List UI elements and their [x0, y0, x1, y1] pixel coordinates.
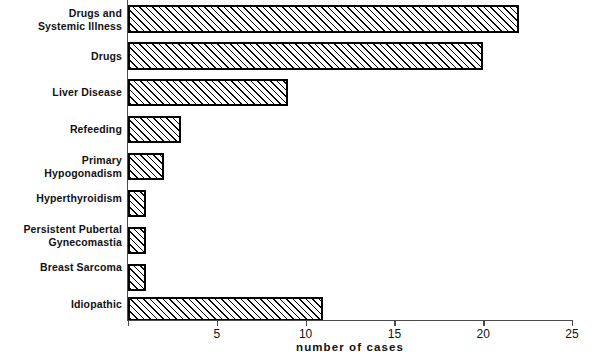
bar-drugs: [128, 42, 483, 70]
plot-area: [128, 0, 572, 320]
bar-idiopathic: [128, 297, 323, 321]
category-label-breast-sarcoma: Breast Sarcoma: [0, 261, 122, 274]
x-tick-label-10: 10: [286, 327, 326, 341]
bar-primary-hypogonadism: [128, 153, 164, 180]
bar-liver-disease: [128, 79, 288, 106]
x-tick-label-5: 5: [197, 327, 237, 341]
bar-hyperthyroidism: [128, 190, 146, 217]
x-axis-line: [127, 320, 573, 321]
category-label-persistent-pubertal-gynecomastia: Persistent Pubertal Gynecomastia: [0, 223, 122, 248]
bar-refeeding: [128, 116, 181, 143]
y-axis-line: [127, 0, 128, 321]
x-tick-0: [128, 321, 129, 326]
bar-drugs-and-systemic-illness: [128, 5, 519, 33]
bar-chart: Drugs and Systemic Illness Drugs Liver D…: [0, 0, 592, 361]
bar-breast-sarcoma: [128, 264, 146, 291]
x-tick-label-15: 15: [374, 327, 414, 341]
category-axis-labels: Drugs and Systemic Illness Drugs Liver D…: [0, 0, 122, 320]
category-label-drugs: Drugs: [0, 50, 122, 63]
category-label-primary-hypogonadism: Primary Hypogonadism: [0, 154, 122, 179]
x-tick-15: [394, 321, 395, 326]
x-tick-20: [483, 321, 484, 326]
x-tick-label-25: 25: [552, 327, 592, 341]
x-tick-label-20: 20: [463, 327, 503, 341]
category-label-drugs-and-systemic-illness: Drugs and Systemic Illness: [0, 7, 122, 32]
x-axis-title: number of cases: [128, 341, 572, 353]
category-label-liver-disease: Liver Disease: [0, 86, 122, 99]
bar-persistent-pubertal-gynecomastia: [128, 227, 146, 254]
x-tick-25: [572, 321, 573, 326]
x-tick-5: [217, 321, 218, 326]
category-label-idiopathic: Idiopathic: [0, 298, 122, 311]
category-label-hyperthyroidism: Hyperthyroidism: [0, 192, 122, 205]
x-tick-10: [306, 321, 307, 326]
category-label-refeeding: Refeeding: [0, 123, 122, 136]
